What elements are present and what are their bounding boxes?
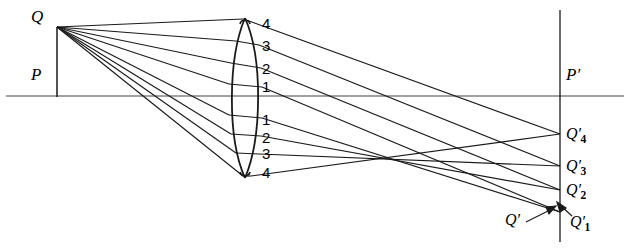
refracted-ray-2-lower [261,136,560,190]
refracted-ray-2-upper [261,68,560,190]
label-image-point-3-sub: 3 [580,165,586,177]
label-image-point-3: Q′3 [566,158,586,177]
refracted-ray-4-upper [249,21,560,134]
q-prime-1-arrow-head [557,202,566,212]
optics-ray-diagram: Q P P′ 4 3 2 1 1 2 3 4 Q′4 Q′3 Q′2 Q′1 Q… [0,0,629,249]
label-image-point-2: Q′2 [566,182,586,201]
label-image-point-1-base: Q′ [570,213,585,230]
label-image-point-3-base: Q′ [566,157,581,174]
incident-ray-3-upper [57,27,236,41]
label-image-point-generic-Q-prime: Q′ [505,212,520,228]
internal-ray-3-upper [236,41,259,45]
label-image-point-1: Q′1 [570,214,590,233]
diagram-canvas [0,0,629,249]
incident-ray-4-upper [57,19,243,27]
label-image-point-4-sub: 4 [580,133,586,145]
label-image-point-4-base: Q′ [566,125,581,142]
incident-ray-1-upper [57,27,229,84]
label-image-point-4: Q′4 [566,126,586,145]
refracted-ray-3-upper [259,45,560,166]
ray-label-upper-4: 4 [262,16,270,31]
ray-label-upper-2: 2 [262,61,270,76]
ray-label-lower-3: 3 [262,146,270,161]
incident-ray-4-lower [57,27,243,176]
ray-label-upper-1: 1 [262,79,270,94]
label-image-point-1-sub: 1 [584,221,590,233]
incident-ray-bundle [57,19,243,176]
refracted-ray-1-lower [262,118,560,212]
incident-ray-1-lower [57,27,229,115]
label-image-axis-point-P-prime: P′ [566,66,580,83]
incident-ray-2-lower [57,27,231,134]
ray-label-lower-4: 4 [262,165,270,180]
ray-label-upper-3: 3 [262,38,270,53]
internal-ray-segments [229,19,262,176]
ray-label-lower-1: 1 [262,112,270,127]
internal-ray-3-lower [236,153,259,154]
label-object-point-Q: Q [31,8,43,25]
ray-label-lower-2: 2 [262,130,270,145]
refracted-ray-bundle [249,21,560,212]
label-object-axis-point-P: P [31,66,41,83]
label-image-point-2-sub: 2 [580,189,586,201]
image-point-pointer-arrows [526,202,572,222]
label-image-point-2-base: Q′ [566,181,581,198]
